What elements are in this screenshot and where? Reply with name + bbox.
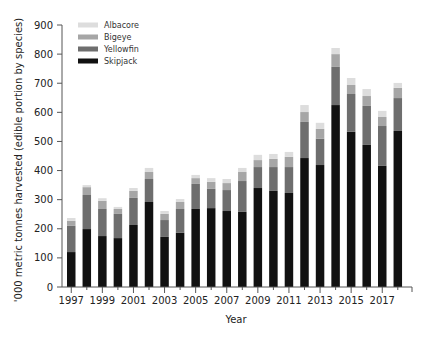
bar-segment-yellowfin <box>98 209 107 236</box>
legend-item-albacore: Albacore <box>78 21 139 30</box>
y-tick-label: 600 <box>34 107 53 118</box>
bar-segment-skipjack <box>83 229 92 287</box>
bar-segment-skipjack <box>362 145 371 287</box>
x-tick-label: 2011 <box>276 295 301 306</box>
bar-group-2000 <box>114 207 123 287</box>
bar-segment-bigeye <box>160 214 169 220</box>
y-tick-label: 400 <box>34 165 53 176</box>
bar-segment-skipjack <box>176 233 185 287</box>
bar-group-2011 <box>285 152 294 287</box>
bar-segment-yellowfin <box>300 122 309 158</box>
bar-segment-albacore <box>83 185 92 187</box>
bar-segment-yellowfin <box>145 179 154 202</box>
bar-segment-albacore <box>129 188 138 191</box>
bar-segment-bigeye <box>362 96 371 106</box>
bar-segment-bigeye <box>83 187 92 195</box>
bar-group-2010 <box>269 154 278 287</box>
legend-swatch <box>78 23 98 28</box>
bar-segment-bigeye <box>238 172 247 181</box>
bar-segment-skipjack <box>378 166 387 287</box>
bar-segment-albacore <box>394 83 403 88</box>
bar-segment-skipjack <box>316 165 325 287</box>
bar-group-2002 <box>145 168 154 287</box>
y-tick-label: 100 <box>34 252 53 263</box>
bar-segment-albacore <box>114 207 123 209</box>
bar-segment-yellowfin <box>238 181 247 212</box>
bar-group-2017 <box>378 111 387 287</box>
x-tick-label: 2009 <box>245 295 270 306</box>
bar-segment-skipjack <box>129 225 138 287</box>
bar-segment-albacore <box>98 198 107 201</box>
bar-segment-skipjack <box>331 105 340 287</box>
legend-swatch <box>78 59 98 64</box>
bar-group-2001 <box>129 188 138 287</box>
bar-segment-albacore <box>176 199 185 202</box>
stacked-bar-chart: 0100200300400500600700800900 19971999200… <box>0 0 427 338</box>
legend-item-yellowfin: Yellowfin <box>78 45 139 54</box>
bar-segment-bigeye <box>254 160 263 167</box>
bar-segment-bigeye <box>316 129 325 139</box>
bar-segment-yellowfin <box>362 106 371 145</box>
bar-segment-albacore <box>331 48 340 54</box>
bar-group-2012 <box>300 105 309 287</box>
bar-segment-yellowfin <box>394 98 403 131</box>
bar-segment-yellowfin <box>191 184 200 209</box>
bar-group-2014 <box>331 48 340 287</box>
bar-group-2018 <box>394 83 403 287</box>
x-axis: 1997199920012003200520072009201120132015… <box>59 287 412 306</box>
bar-segment-yellowfin <box>254 167 263 188</box>
bar-segment-skipjack <box>300 158 309 287</box>
bar-group-2008 <box>238 168 247 287</box>
bar-segment-albacore <box>362 89 371 96</box>
bar-segment-bigeye <box>114 209 123 214</box>
bar-segment-bigeye <box>191 178 200 184</box>
bar-segment-albacore <box>316 123 325 129</box>
bar-segment-bigeye <box>98 201 107 209</box>
bar-group-2016 <box>362 89 371 287</box>
y-tick-label: 900 <box>34 20 53 31</box>
bars-layer <box>67 48 402 287</box>
bar-segment-skipjack <box>145 202 154 287</box>
y-axis-title: '000 metric tonnes harvested (edible por… <box>13 18 24 302</box>
bar-segment-bigeye <box>176 202 185 209</box>
bar-segment-albacore <box>160 211 169 214</box>
bar-segment-bigeye <box>347 85 356 94</box>
y-tick-label: 700 <box>34 78 53 89</box>
bar-segment-albacore <box>207 178 216 182</box>
legend-swatch <box>78 35 98 40</box>
legend-item-bigeye: Bigeye <box>78 33 131 42</box>
bar-segment-skipjack <box>191 209 200 287</box>
x-tick-label: 1997 <box>59 295 84 306</box>
bar-segment-yellowfin <box>347 94 356 132</box>
legend-label: Skipjack <box>104 57 138 66</box>
y-tick-label: 300 <box>34 194 53 205</box>
bar-segment-albacore <box>254 155 263 160</box>
bar-segment-yellowfin <box>316 139 325 165</box>
bar-segment-bigeye <box>378 117 387 126</box>
legend-label: Bigeye <box>104 33 131 42</box>
bar-segment-skipjack <box>160 237 169 287</box>
bar-segment-albacore <box>67 218 76 221</box>
y-tick-label: 0 <box>47 282 53 293</box>
y-tick-label: 800 <box>34 49 53 60</box>
bar-segment-bigeye <box>223 183 232 190</box>
x-tick-label: 2007 <box>214 295 239 306</box>
bar-segment-yellowfin <box>176 209 185 233</box>
bar-segment-yellowfin <box>114 214 123 238</box>
bar-group-1997 <box>67 218 76 287</box>
bar-segment-bigeye <box>269 159 278 167</box>
bar-segment-albacore <box>145 168 154 172</box>
x-tick-label: 2015 <box>338 295 363 306</box>
bar-segment-albacore <box>378 111 387 117</box>
bar-segment-yellowfin <box>207 189 216 208</box>
bar-segment-albacore <box>238 168 247 172</box>
bar-segment-skipjack <box>98 236 107 287</box>
bar-group-2004 <box>176 199 185 287</box>
bar-segment-yellowfin <box>67 226 76 252</box>
bar-segment-skipjack <box>223 211 232 287</box>
bar-segment-albacore <box>191 175 200 178</box>
bar-segment-skipjack <box>285 193 294 287</box>
bar-segment-bigeye <box>207 182 216 189</box>
bar-segment-bigeye <box>285 157 294 167</box>
bar-segment-albacore <box>300 105 309 112</box>
